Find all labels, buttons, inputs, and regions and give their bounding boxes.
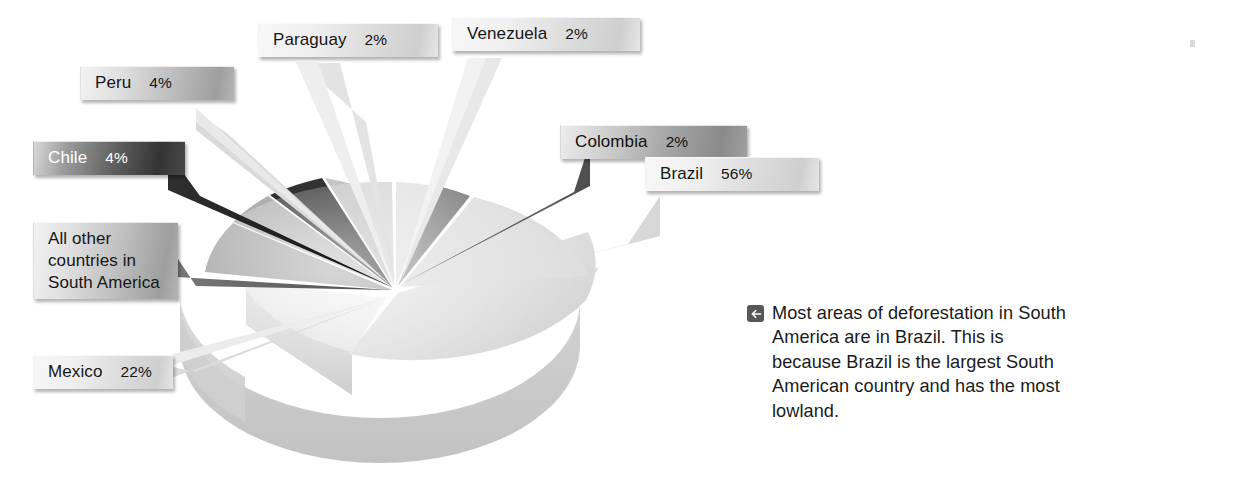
callout-mexico-name: Mexico — [48, 362, 102, 381]
callout-mexico[interactable]: Mexico22% — [33, 355, 173, 389]
callout-mexico-pct: 22% — [120, 363, 151, 380]
arrow-left-icon — [747, 305, 764, 322]
callout-brazil-pct: 56% — [721, 165, 752, 182]
callout-venezuela-pct: 2% — [565, 25, 588, 42]
callout-colombia-pct: 2% — [666, 133, 689, 150]
page-speck — [1190, 40, 1195, 47]
callout-paraguay-name: Paraguay — [273, 30, 347, 49]
callout-venezuela-name: Venezuela — [467, 24, 547, 43]
caption-text: Most areas of deforestation in South Ame… — [772, 301, 1077, 423]
callout-all-other-countries[interactable]: All other countries in South America — [33, 222, 178, 299]
callout-colombia-name: Colombia — [575, 132, 648, 151]
callout-paraguay-pct: 2% — [365, 31, 388, 48]
callout-peru[interactable]: Peru4% — [80, 66, 234, 100]
callout-brazil[interactable]: Brazil56% — [645, 157, 819, 191]
callout-colombia[interactable]: Colombia2% — [560, 125, 747, 159]
callout-chile-pct: 4% — [105, 149, 128, 166]
callout-brazil-name: Brazil — [660, 164, 703, 183]
callout-all-other-countries-name: All other countries in South America — [48, 229, 160, 292]
callout-chile-name: Chile — [48, 148, 87, 167]
callout-chile[interactable]: Chile4% — [33, 141, 185, 175]
caption: Most areas of deforestation in South Ame… — [747, 301, 1077, 423]
callout-paraguay[interactable]: Paraguay2% — [258, 23, 438, 57]
callout-peru-name: Peru — [95, 73, 131, 92]
callout-peru-pct: 4% — [149, 74, 172, 91]
deforestation-pie-figure: Paraguay2% Venezuela2% Peru4% Colombia2%… — [0, 0, 1246, 485]
callout-venezuela[interactable]: Venezuela2% — [452, 17, 640, 51]
